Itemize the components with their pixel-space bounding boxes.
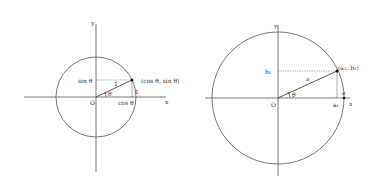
right-point-label: (a₁, b₁): [338, 64, 359, 71]
left-origin-label: O: [90, 99, 95, 106]
left-y-label: y: [90, 19, 95, 27]
left-point-dot: [131, 79, 134, 82]
left-arc-label: 1: [135, 88, 139, 95]
right-b-label: b₁: [265, 68, 271, 75]
right-x-label: x: [349, 100, 353, 107]
right-radius-label: a: [306, 75, 310, 82]
right-y-label: y: [273, 22, 278, 30]
right-a-proj-label: a₁: [333, 101, 339, 108]
right-origin-label: O: [271, 101, 276, 108]
right-circle-diagram: y x O b₁ a₁ (a₁, b₁) a a θ: [205, 22, 359, 176]
left-cos-label: cos θ: [118, 99, 134, 106]
right-x-intercept-dot: [343, 97, 346, 100]
unit-circle-figures: y x O sin θ cos θ (cos θ, sin θ) 1 1 θ y…: [0, 0, 378, 186]
right-x-intercept-label: a: [342, 89, 346, 96]
right-angle-label: θ: [292, 91, 296, 98]
left-point-label: (cos θ, sin θ): [141, 77, 179, 84]
left-angle-label: θ: [108, 90, 112, 97]
left-radius-label: 1: [114, 80, 118, 87]
left-unit-circle-diagram: y x O sin θ cos θ (cos θ, sin θ) 1 1 θ: [24, 19, 179, 172]
left-sin-label: sin θ: [78, 77, 93, 84]
left-x-label: x: [165, 98, 169, 105]
